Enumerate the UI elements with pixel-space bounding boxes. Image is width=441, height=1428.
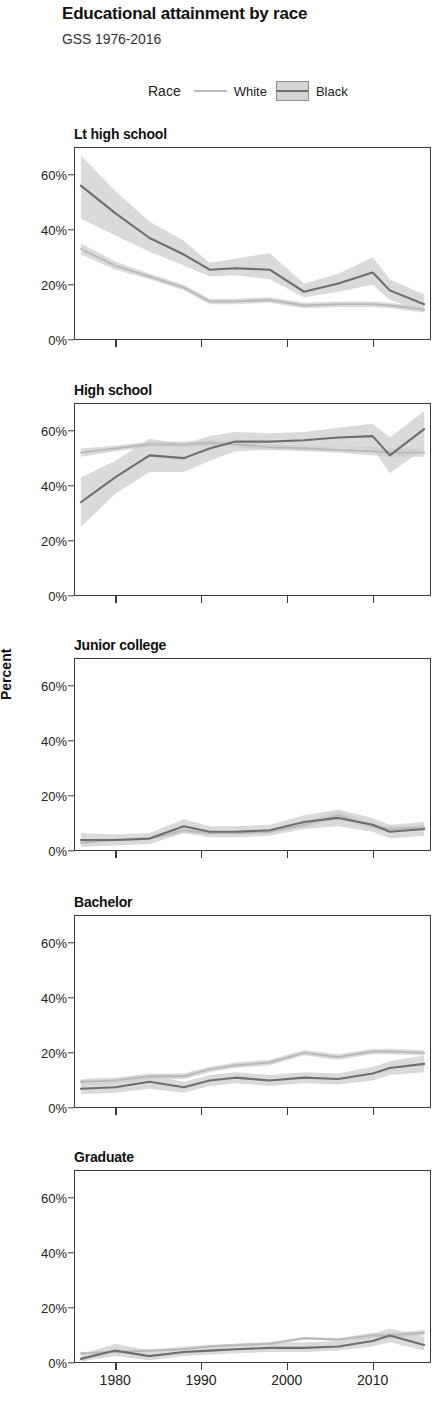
y-tick-label: 60% — [41, 935, 67, 950]
plot-area: 0%20%40%60% — [74, 403, 431, 596]
x-tick-mark — [115, 851, 116, 858]
y-tick-label: 0% — [48, 1356, 67, 1371]
series-layer — [74, 658, 431, 851]
y-tick-label: 20% — [41, 277, 67, 292]
x-tick-label: 2010 — [357, 1372, 388, 1388]
y-tick-label: 20% — [41, 788, 67, 803]
series-line-black — [81, 186, 424, 305]
legend-item-white[interactable]: White — [194, 84, 267, 99]
confidence-band-black — [81, 411, 424, 527]
x-tick-mark — [373, 596, 374, 603]
x-tick-mark — [287, 596, 288, 603]
x-tick-label: 2000 — [271, 1372, 302, 1388]
x-tick-label: 1980 — [100, 1372, 131, 1388]
y-tick-label: 20% — [41, 1045, 67, 1060]
x-tick-mark — [201, 596, 202, 603]
legend-title: Race — [148, 83, 181, 99]
confidence-band-black — [81, 155, 424, 311]
chart-legend: Race White Black — [148, 80, 348, 102]
confidence-band-black — [81, 810, 424, 847]
y-tick-label: 40% — [41, 222, 67, 237]
y-tick-label: 20% — [41, 533, 67, 548]
x-tick-mark — [115, 596, 116, 603]
plot-area: 0%20%40%60% — [74, 147, 431, 340]
y-tick-label: 40% — [41, 478, 67, 493]
line-swatch-icon — [194, 84, 227, 98]
x-tick-mark — [373, 340, 374, 347]
y-tick-label: 0% — [48, 1101, 67, 1116]
y-tick-label: 40% — [41, 990, 67, 1005]
x-tick-mark — [201, 1363, 202, 1370]
y-tick-label: 40% — [41, 733, 67, 748]
x-tick-mark — [115, 340, 116, 347]
page-title: Educational attainment by race — [62, 4, 432, 24]
x-tick-mark — [373, 1108, 374, 1115]
facet-title: High school — [74, 382, 152, 398]
x-tick-mark — [287, 1108, 288, 1115]
x-tick-label: 1990 — [185, 1372, 216, 1388]
y-tick-label: 60% — [41, 167, 67, 182]
facet-title: Graduate — [74, 1149, 134, 1165]
facet-title: Junior college — [74, 637, 166, 653]
facet-title: Lt high school — [74, 126, 167, 142]
plot-area: 0%20%40%60% — [74, 658, 431, 851]
y-tick-label: 20% — [41, 1300, 67, 1315]
x-tick-mark — [287, 340, 288, 347]
x-tick-mark — [287, 1363, 288, 1370]
y-tick-label: 60% — [41, 1190, 67, 1205]
x-tick-mark — [373, 1363, 374, 1370]
facet-title: Bachelor — [74, 894, 132, 910]
series-layer — [74, 1170, 431, 1363]
chart-container: Educational attainment by race GSS 1976-… — [0, 0, 441, 1428]
x-tick-mark — [287, 851, 288, 858]
x-tick-mark — [201, 851, 202, 858]
legend-label-white: White — [234, 84, 267, 99]
y-axis-title: Percent — [0, 649, 14, 700]
series-layer — [74, 403, 431, 596]
band-swatch-icon — [276, 81, 309, 101]
y-tick-label: 0% — [48, 844, 67, 859]
x-tick-mark — [201, 340, 202, 347]
legend-label-black: Black — [316, 84, 348, 99]
y-tick-label: 0% — [48, 333, 67, 348]
series-layer — [74, 915, 431, 1108]
chart-subtitle: GSS 1976-2016 — [62, 31, 432, 47]
plot-area: 0%20%40%60%1980199020002010 — [74, 1170, 431, 1363]
x-tick-mark — [373, 851, 374, 858]
plot-area: 0%20%40%60% — [74, 915, 431, 1108]
y-tick-label: 0% — [48, 589, 67, 604]
x-tick-mark — [115, 1108, 116, 1115]
series-layer — [74, 147, 431, 340]
y-tick-label: 60% — [41, 423, 67, 438]
y-tick-label: 40% — [41, 1245, 67, 1260]
x-tick-mark — [115, 1363, 116, 1370]
x-tick-mark — [201, 1108, 202, 1115]
legend-item-black[interactable]: Black — [276, 81, 348, 101]
y-tick-label: 60% — [41, 678, 67, 693]
